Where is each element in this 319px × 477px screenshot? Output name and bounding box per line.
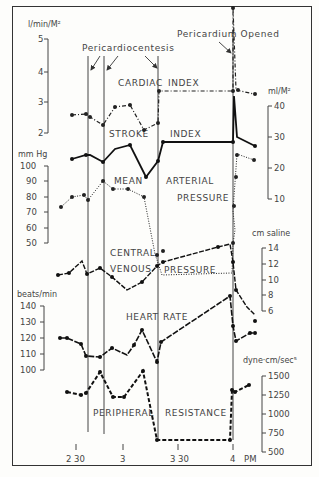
svg-text:3: 3 <box>38 97 43 107</box>
axis-peripheral-resistance: dyne·cm/sec⁵ 1500 1250 1000 750 500 <box>243 356 297 457</box>
svg-text:VENOUS: VENOUS <box>110 264 152 274</box>
svg-text:100: 100 <box>20 161 36 171</box>
svg-text:1500: 1500 <box>268 371 290 381</box>
svg-text:750: 750 <box>268 428 284 438</box>
svg-text:30: 30 <box>274 132 285 142</box>
svg-text:RESISTANCE: RESISTANCE <box>165 408 227 418</box>
arrow-icon <box>107 56 118 70</box>
axis-heart-rate: beats/min 140 130 120 110 100 <box>17 290 57 375</box>
svg-text:70: 70 <box>26 207 37 217</box>
svg-text:40: 40 <box>274 101 285 111</box>
svg-text:mm Hg: mm Hg <box>18 150 47 159</box>
axis-cardiac-index: l/min/M² 5 4 3 2 <box>28 20 61 138</box>
svg-text:HEART: HEART <box>126 312 159 322</box>
pericardium-opened-label: Pericardium Opened <box>177 29 279 39</box>
svg-text:CARDIAC: CARDIAC <box>118 78 163 88</box>
svg-text:3: 3 <box>120 454 125 464</box>
svg-text:8: 8 <box>268 290 273 300</box>
svg-text:10: 10 <box>274 194 285 204</box>
svg-text:5: 5 <box>38 34 43 44</box>
svg-text:10: 10 <box>268 275 279 285</box>
x-axis <box>76 444 233 450</box>
svg-text:12: 12 <box>268 259 279 269</box>
svg-text:90: 90 <box>26 176 37 186</box>
svg-text:INDEX: INDEX <box>170 129 201 139</box>
svg-text:1000: 1000 <box>268 409 290 419</box>
svg-text:50: 50 <box>26 238 37 248</box>
svg-text:INDEX: INDEX <box>168 78 199 88</box>
axis-central-venous-pressure: cm saline 14 12 10 8 6 <box>252 229 290 316</box>
svg-text:cm saline: cm saline <box>252 229 290 238</box>
svg-text:130: 130 <box>20 317 36 327</box>
svg-text:4: 4 <box>38 67 43 77</box>
svg-text:14: 14 <box>268 243 279 253</box>
svg-text:PRESSURE: PRESSURE <box>164 265 216 275</box>
svg-text:l/min/M²: l/min/M² <box>28 20 61 29</box>
svg-text:MEAN: MEAN <box>114 176 143 186</box>
arrow-icon <box>219 42 231 53</box>
svg-text:dyne·cm/sec⁵: dyne·cm/sec⁵ <box>243 356 297 365</box>
svg-text:500: 500 <box>268 447 284 457</box>
svg-text:RATE: RATE <box>163 312 188 322</box>
svg-text:ml/M²: ml/M² <box>268 87 291 96</box>
svg-text:2 30: 2 30 <box>66 454 85 464</box>
svg-text:CENTRAL: CENTRAL <box>110 248 155 258</box>
svg-text:1250: 1250 <box>268 390 290 400</box>
axis-mean-arterial-pressure: mm Hg 100 90 80 70 60 50 <box>18 150 48 248</box>
hemodynamics-chart: Pericardiocentesis Pericardium Opened l/… <box>0 0 319 477</box>
svg-text:PM: PM <box>244 454 256 464</box>
svg-text:ARTERIAL: ARTERIAL <box>166 176 214 186</box>
axis-stroke-index: ml/M² 40 30 20 10 <box>268 87 291 204</box>
arrow-icon <box>91 56 100 70</box>
series-cardiac-index <box>70 6 257 132</box>
svg-text:6: 6 <box>268 306 273 316</box>
svg-text:120: 120 <box>20 333 36 343</box>
svg-text:2: 2 <box>38 128 43 138</box>
svg-text:60: 60 <box>26 223 37 233</box>
svg-text:80: 80 <box>26 192 37 202</box>
svg-text:140: 140 <box>20 301 36 311</box>
svg-text:beats/min: beats/min <box>17 290 57 299</box>
pericardiocentesis-label: Pericardiocentesis <box>82 43 175 53</box>
svg-text:100: 100 <box>20 365 36 375</box>
arrow-icon <box>145 56 157 68</box>
svg-text:PRESSURE: PRESSURE <box>177 193 229 203</box>
svg-text:4: 4 <box>230 454 235 464</box>
svg-text:20: 20 <box>274 163 285 173</box>
svg-text:PERIPHERAL: PERIPHERAL <box>93 408 154 418</box>
svg-text:3 30: 3 30 <box>170 454 189 464</box>
svg-text:110: 110 <box>20 349 36 359</box>
series-stroke-index <box>70 96 257 179</box>
